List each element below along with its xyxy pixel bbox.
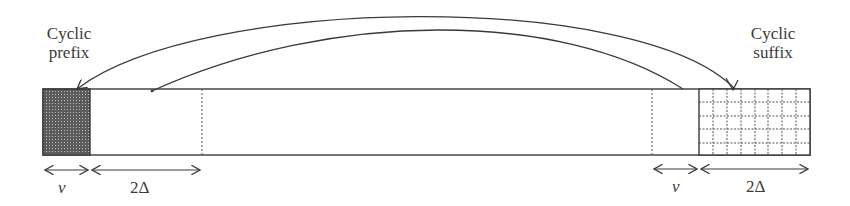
prefix-copy-arrow — [77, 17, 735, 89]
suffix-label-line2: suffix — [738, 43, 808, 62]
left-2delta-symbol: 2Δ — [130, 178, 149, 198]
suffix-copy-arrow — [152, 30, 683, 91]
suffix-label-line1: Cyclic — [738, 24, 808, 43]
suffix-copy-start-dot — [151, 90, 154, 93]
diagram-canvas — [0, 0, 850, 206]
right-2delta-symbol: 2Δ — [746, 177, 765, 197]
symbol-frame — [43, 89, 810, 155]
cyclic-suffix-label: Cyclic suffix — [738, 24, 808, 62]
prefix-label-line1: Cyclic — [34, 24, 104, 43]
cyclic-prefix-label: Cyclic prefix — [34, 24, 104, 62]
suffix-arrowhead — [726, 78, 738, 90]
cyclic-suffix-block — [699, 89, 810, 155]
cyclic-prefix-block — [43, 89, 90, 155]
left-nu-symbol: ν — [58, 178, 66, 198]
right-nu-symbol: ν — [672, 177, 680, 197]
prefix-label-line2: prefix — [34, 43, 104, 62]
